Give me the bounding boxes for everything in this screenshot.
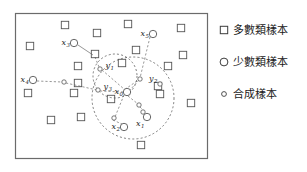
synthetic-sample-marker (158, 82, 162, 86)
minority-sample-marker (70, 39, 77, 46)
legend-item: 少數類樣本 (220, 55, 288, 69)
point-label-subscript: 0 (119, 91, 123, 97)
legend-item: 多數類樣本 (220, 23, 288, 37)
synthetic-sample-marker (137, 103, 141, 107)
legend: 多數類樣本少數類樣本合成樣本 (220, 23, 288, 101)
legend-item: 合成樣本 (222, 87, 277, 101)
legend-label: 多數類樣本 (233, 23, 288, 37)
minority-sample-marker (149, 30, 156, 37)
point-label-subscript: 4 (24, 79, 29, 85)
synthetic-sample-marker (62, 80, 66, 84)
synthetic-sample-marker (98, 67, 102, 71)
minority-sample-marker (123, 88, 130, 95)
point-label-subscript: 1 (141, 123, 145, 129)
legend-label: 少數類樣本 (233, 55, 288, 69)
synthetic-sample-marker (96, 88, 100, 92)
majority-square-marker (220, 26, 227, 33)
diagram-canvas: x3x5x4x0x1x2y1y2y3多數類樣本少數類樣本合成樣本 (0, 0, 307, 172)
legend-label: 合成樣本 (233, 87, 277, 101)
point-label-subscript: 3 (108, 86, 112, 92)
point-label-subscript: 5 (145, 33, 149, 39)
point-label-subscript: 2 (115, 126, 120, 132)
point-label-subscript: 3 (66, 42, 70, 48)
point-label-subscript: 1 (110, 65, 114, 71)
minority-sample-marker (120, 123, 127, 130)
point-label-subscript: 2 (153, 78, 158, 84)
smote-diagram-figure: x3x5x4x0x1x2y1y2y3多數類樣本少數類樣本合成樣本 (0, 0, 307, 172)
minority-circle-marker (220, 58, 228, 66)
minority-sample-marker (143, 113, 150, 120)
synthetic-circle-marker (222, 92, 227, 97)
synthetic-sample-marker (112, 116, 116, 120)
synthetic-sample-marker (141, 110, 145, 114)
synthetic-sample-marker (138, 77, 142, 81)
minority-sample-marker (29, 76, 36, 83)
